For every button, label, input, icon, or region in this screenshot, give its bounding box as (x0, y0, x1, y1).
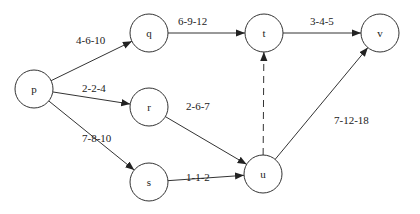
edge-r-u: 2-6-7 (165, 100, 246, 164)
node-label: r (147, 101, 151, 113)
edge-label: 4-6-10 (76, 34, 106, 46)
edge-label: 3-4-5 (310, 15, 334, 27)
edge-p-s: 7-8-10 (49, 101, 134, 170)
arrow-icon (263, 52, 264, 155)
node-label: v (377, 27, 383, 39)
edge-label: 2-2-4 (82, 82, 106, 94)
arrow-icon (275, 48, 368, 160)
node-label: u (260, 168, 266, 180)
edge-p-q: 4-6-10 (51, 34, 132, 81)
arrow-icon (51, 41, 132, 80)
node-r: r (130, 88, 168, 126)
node-s: s (130, 163, 168, 201)
edge-u-t (263, 52, 264, 155)
node-label: q (146, 27, 152, 39)
edge-label: 7-12-18 (334, 114, 369, 126)
edge-label: 2-6-7 (186, 100, 210, 112)
node-u: u (244, 155, 282, 193)
edge-q-t: 6-9-12 (168, 15, 245, 33)
node-label: s (147, 176, 151, 188)
node-q: q (130, 14, 168, 52)
edge-p-r: 2-2-4 (53, 82, 130, 104)
edge-label: 7-8-10 (82, 132, 112, 144)
edge-label: 1-1-2 (186, 171, 210, 183)
edge-u-v: 7-12-18 (275, 48, 369, 160)
edge-t-v: 3-4-5 (283, 15, 361, 33)
arrow-icon (165, 117, 246, 165)
edge-s-u: 1-1-2 (168, 171, 244, 183)
node-v: v (361, 14, 399, 52)
node-label: p (31, 83, 37, 95)
edge-label: 6-9-12 (178, 15, 207, 27)
edges-layer: 4-6-102-2-47-8-106-9-122-6-71-1-23-4-57-… (49, 15, 370, 183)
node-p: p (15, 70, 53, 108)
network-diagram: 4-6-102-2-47-8-106-9-122-6-71-1-23-4-57-… (0, 0, 420, 214)
node-t: t (245, 14, 283, 52)
node-label: t (262, 27, 265, 39)
